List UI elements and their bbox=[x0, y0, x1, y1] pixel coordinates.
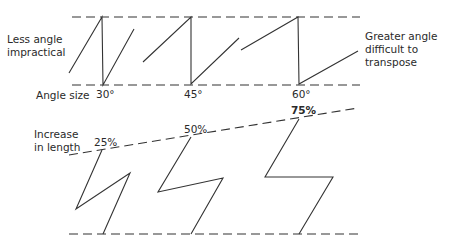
zigzag-45 bbox=[143, 17, 239, 84]
increase-length-label: Increase in length bbox=[34, 128, 80, 154]
increase-50-label: 50% bbox=[184, 123, 207, 136]
angle-45-label: 45° bbox=[184, 88, 203, 101]
shape-25 bbox=[76, 150, 130, 234]
angle-60-label: 60° bbox=[292, 88, 311, 101]
shape-50 bbox=[158, 137, 223, 234]
shape-75 bbox=[265, 119, 333, 234]
greater-angle-label: Greater angle difficult to transpose bbox=[365, 30, 437, 69]
increase-75-label: 75% bbox=[291, 104, 316, 117]
zigzag-30 bbox=[69, 17, 134, 85]
angle-30-label: 30° bbox=[96, 88, 115, 101]
angle-size-label: Angle size bbox=[36, 89, 90, 102]
zigzag-60 bbox=[241, 17, 358, 84]
increase-25-label: 25% bbox=[94, 136, 117, 149]
less-angle-label: Less angle impractical bbox=[7, 33, 66, 59]
